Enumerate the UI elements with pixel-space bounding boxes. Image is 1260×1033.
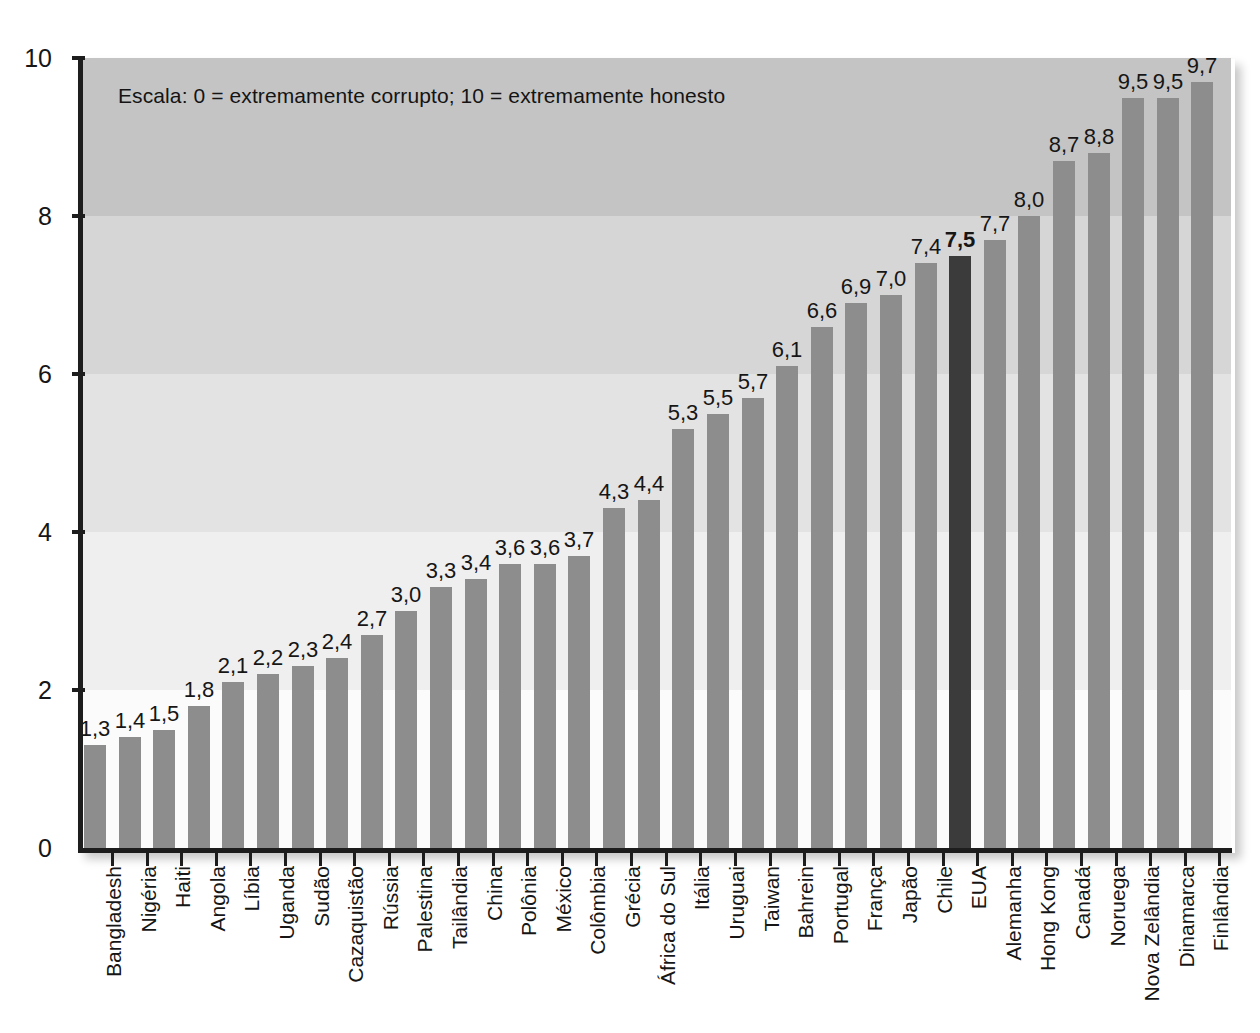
- bar-column[interactable]: 3,0: [395, 58, 417, 848]
- bar-column[interactable]: 2,7: [361, 58, 383, 848]
- bar[interactable]: [1088, 153, 1110, 848]
- bar-column[interactable]: 1,4: [119, 58, 141, 848]
- bar-column[interactable]: 1,3: [84, 58, 106, 848]
- x-axis-tick-mark: [319, 853, 322, 866]
- bar[interactable]: [1018, 216, 1040, 848]
- y-axis-tick-label: 2: [38, 678, 52, 703]
- x-axis-tick-mark: [1045, 853, 1048, 866]
- bar[interactable]: [1053, 161, 1075, 848]
- bar[interactable]: [153, 730, 175, 849]
- bar-column[interactable]: 3,3: [430, 58, 452, 848]
- bar[interactable]: [880, 295, 902, 848]
- bar-column[interactable]: 9,5: [1122, 58, 1144, 848]
- x-axis-category-label: Hong Kong: [1037, 866, 1058, 971]
- x-axis-tick-mark: [249, 853, 252, 866]
- x-axis-tick-mark: [1115, 853, 1118, 866]
- bar-column[interactable]: 8,0: [1018, 58, 1040, 848]
- x-axis-category-label: Colômbia: [587, 866, 608, 955]
- bar-column[interactable]: 7,7: [984, 58, 1006, 848]
- bar[interactable]: [845, 303, 867, 848]
- bar[interactable]: [188, 706, 210, 848]
- bar[interactable]: [984, 240, 1006, 848]
- bar-column[interactable]: 6,6: [811, 58, 833, 848]
- x-axis-category-label: Bahrein: [795, 866, 816, 938]
- x-axis-tick-mark: [872, 853, 875, 866]
- x-axis-tick-mark: [388, 853, 391, 866]
- bar-column[interactable]: 3,6: [534, 58, 556, 848]
- bar[interactable]: [119, 737, 141, 848]
- bar-chart: 1,31,41,51,82,12,22,32,42,73,03,33,43,63…: [0, 0, 1260, 1033]
- bar-highlighted[interactable]: [949, 256, 971, 849]
- bar[interactable]: [568, 556, 590, 848]
- bar-value-label: 5,7: [738, 371, 769, 393]
- bar-value-label: 8,0: [1014, 189, 1045, 211]
- bar[interactable]: [84, 745, 106, 848]
- bar-column[interactable]: 2,1: [222, 58, 244, 848]
- bar-column[interactable]: 7,0: [880, 58, 902, 848]
- bar[interactable]: [672, 429, 694, 848]
- bar-column[interactable]: 8,7: [1053, 58, 1075, 848]
- y-axis-tick-label: 6: [38, 362, 52, 387]
- x-axis-category-label: Canadá: [1072, 866, 1093, 940]
- bar-column[interactable]: 3,7: [568, 58, 590, 848]
- bar-column[interactable]: 3,4: [465, 58, 487, 848]
- bar[interactable]: [742, 398, 764, 848]
- bar[interactable]: [811, 327, 833, 848]
- bar[interactable]: [707, 414, 729, 849]
- bar-column[interactable]: 9,5: [1157, 58, 1179, 848]
- bar-column[interactable]: 6,9: [845, 58, 867, 848]
- bar[interactable]: [326, 658, 348, 848]
- x-axis-category-label: Palestina: [414, 866, 435, 952]
- bar[interactable]: [499, 564, 521, 848]
- y-axis: 0246810: [0, 0, 66, 1033]
- bar-column[interactable]: 2,3: [292, 58, 314, 848]
- bar[interactable]: [1122, 98, 1144, 849]
- bar-column[interactable]: 3,6: [499, 58, 521, 848]
- bar[interactable]: [292, 666, 314, 848]
- bar-column[interactable]: 6,1: [776, 58, 798, 848]
- bar[interactable]: [257, 674, 279, 848]
- bar[interactable]: [534, 564, 556, 848]
- bar[interactable]: [1191, 82, 1213, 848]
- x-axis-tick-mark: [1011, 853, 1014, 866]
- x-axis-tick-mark: [803, 853, 806, 866]
- bar[interactable]: [395, 611, 417, 848]
- x-axis-category-label: Taiwan: [761, 866, 782, 931]
- x-axis-category-label: Rússia: [380, 866, 401, 930]
- bar-column[interactable]: 2,4: [326, 58, 348, 848]
- bar[interactable]: [915, 263, 937, 848]
- x-axis-tick-mark: [976, 853, 979, 866]
- bar[interactable]: [638, 500, 660, 848]
- bar-column[interactable]: 5,5: [707, 58, 729, 848]
- y-axis-tick-label: 4: [38, 520, 52, 545]
- bar-column[interactable]: 5,3: [672, 58, 694, 848]
- bar-value-label: 9,5: [1153, 71, 1184, 93]
- bar-value-label: 1,8: [184, 679, 215, 701]
- x-axis-category-label: Nova Zelândia: [1141, 866, 1162, 1001]
- bar-column[interactable]: 1,8: [188, 58, 210, 848]
- x-axis-category-label: Líbia: [241, 866, 262, 912]
- bar-value-label: 3,4: [461, 552, 492, 574]
- bar[interactable]: [361, 635, 383, 848]
- bar-column[interactable]: 4,4: [638, 58, 660, 848]
- bar-value-label: 7,0: [876, 268, 907, 290]
- bar[interactable]: [776, 366, 798, 848]
- x-axis-category-label: Noruega: [1107, 866, 1128, 947]
- bar-value-label: 8,8: [1084, 126, 1115, 148]
- x-axis-tick-mark: [769, 853, 772, 866]
- bar-value-label: 3,6: [530, 537, 561, 559]
- bar[interactable]: [222, 682, 244, 848]
- bar-column[interactable]: 7,4: [915, 58, 937, 848]
- bar-column[interactable]: 1,5: [153, 58, 175, 848]
- bar-column[interactable]: 4,3: [603, 58, 625, 848]
- bar[interactable]: [465, 579, 487, 848]
- y-axis-tick-mark: [72, 688, 85, 692]
- bar-column[interactable]: 9,7: [1191, 58, 1213, 848]
- bar-column[interactable]: 8,8: [1088, 58, 1110, 848]
- bar-column[interactable]: 2,2: [257, 58, 279, 848]
- bar[interactable]: [603, 508, 625, 848]
- bar[interactable]: [1157, 98, 1179, 849]
- bar[interactable]: [430, 587, 452, 848]
- bar-column[interactable]: 5,7: [742, 58, 764, 848]
- bar-column[interactable]: 7,5: [949, 58, 971, 848]
